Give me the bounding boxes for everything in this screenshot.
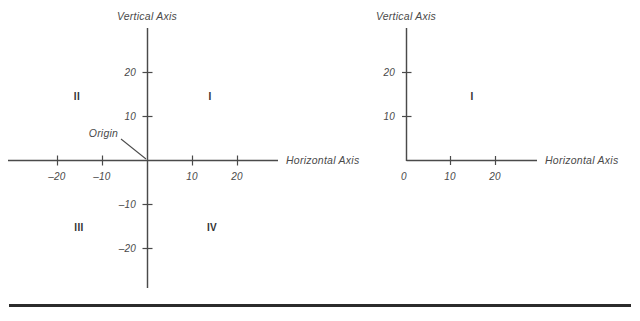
right-coordinate-plane: Vertical Axis Horizontal Axis 0 10 20 20… — [376, 10, 619, 182]
left-x-label-neg10: –10 — [92, 171, 111, 182]
left-x-label-neg20: –20 — [47, 171, 66, 182]
left-y-label-neg10: –10 — [118, 199, 137, 210]
figure-canvas: Vertical Axis Horizontal Axis –20 –10 10… — [0, 0, 640, 321]
left-coordinate-plane: Vertical Axis Horizontal Axis –20 –10 10… — [8, 10, 360, 288]
left-horizontal-axis-title: Horizontal Axis — [286, 154, 360, 166]
left-y-label-pos10: 10 — [124, 111, 136, 122]
right-horizontal-axis-title: Horizontal Axis — [545, 154, 619, 166]
left-quadrant-label-i: I — [208, 91, 211, 102]
right-x-label-zero: 0 — [401, 171, 407, 182]
right-x-label-pos20: 20 — [488, 171, 501, 182]
left-x-label-pos20: 20 — [230, 171, 243, 182]
right-y-label-pos20: 20 — [382, 67, 395, 78]
right-quadrant-label-i: I — [470, 91, 473, 102]
origin-annotation-label: Origin — [89, 127, 118, 139]
right-y-label-pos10: 10 — [383, 111, 395, 122]
left-quadrant-label-ii: II — [74, 91, 80, 102]
right-vertical-axis-title: Vertical Axis — [376, 10, 437, 22]
left-x-label-pos10: 10 — [186, 171, 198, 182]
left-y-label-pos20: 20 — [123, 67, 136, 78]
left-vertical-axis-title: Vertical Axis — [117, 10, 178, 22]
left-y-label-neg20: –20 — [118, 243, 137, 254]
coordinate-planes-figure: Vertical Axis Horizontal Axis –20 –10 10… — [0, 0, 640, 321]
left-quadrant-label-iii: III — [74, 222, 84, 233]
right-x-label-pos10: 10 — [444, 171, 456, 182]
origin-leader-line — [121, 139, 146, 159]
left-quadrant-label-iv: IV — [207, 222, 217, 233]
